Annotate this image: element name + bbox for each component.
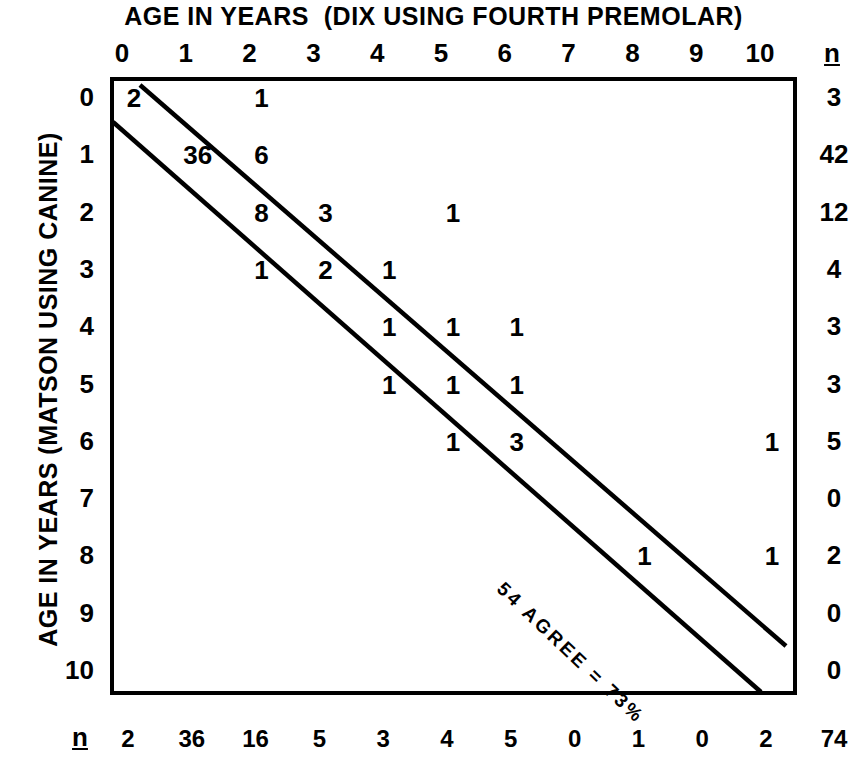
row-total-header: n xyxy=(812,38,852,69)
y-tick-label: 1 xyxy=(30,139,94,170)
column-total: 16 xyxy=(228,725,284,753)
column-total: 5 xyxy=(483,725,539,753)
cell-count: 1 xyxy=(744,427,800,458)
y-tick-label: 4 xyxy=(30,311,94,342)
grand-total: 74 xyxy=(806,725,862,753)
row-total: 5 xyxy=(806,426,862,457)
cell-count: 1 xyxy=(361,255,417,286)
row-total: 12 xyxy=(806,197,862,228)
y-tick-label: 9 xyxy=(30,598,94,629)
column-total-header: n xyxy=(60,722,100,753)
row-total: 0 xyxy=(806,483,862,514)
column-total: 0 xyxy=(547,725,603,753)
column-total: 4 xyxy=(419,725,475,753)
x-tick-label: 9 xyxy=(676,38,716,69)
row-total: 42 xyxy=(806,139,862,170)
row-total: 2 xyxy=(806,540,862,571)
x-tick-label: 7 xyxy=(549,38,589,69)
column-total: 1 xyxy=(610,725,666,753)
cell-count: 36 xyxy=(170,140,226,171)
row-total: 0 xyxy=(806,655,862,686)
column-total: 2 xyxy=(100,725,156,753)
cell-count: 1 xyxy=(489,370,545,401)
cell-count: 1 xyxy=(425,370,481,401)
cell-count: 1 xyxy=(361,370,417,401)
x-tick-label: 0 xyxy=(102,38,142,69)
y-tick-label: 5 xyxy=(30,369,94,400)
cell-count: 6 xyxy=(234,140,290,171)
cell-count: 1 xyxy=(425,198,481,229)
y-tick-label: 8 xyxy=(30,540,94,571)
cell-count: 2 xyxy=(106,83,162,114)
column-total: 36 xyxy=(164,725,220,753)
cell-count: 1 xyxy=(744,541,800,572)
chart-canvas: AGE IN YEARS (DIX USING FOURTH PREMOLAR)… xyxy=(0,0,867,770)
x-tick-label: 8 xyxy=(612,38,652,69)
cell-count: 1 xyxy=(361,312,417,343)
column-total: 2 xyxy=(738,725,794,753)
y-tick-label: 0 xyxy=(30,82,94,113)
cell-count: 1 xyxy=(489,312,545,343)
row-total: 0 xyxy=(806,598,862,629)
y-tick-label: 7 xyxy=(30,483,94,514)
x-tick-label: 6 xyxy=(485,38,525,69)
x-tick-label: 1 xyxy=(166,38,206,69)
x-tick-label: 10 xyxy=(740,38,780,69)
x-tick-label: 3 xyxy=(293,38,333,69)
row-total: 4 xyxy=(806,254,862,285)
y-tick-label: 3 xyxy=(30,254,94,285)
x-axis-title: AGE IN YEARS (DIX USING FOURTH PREMOLAR) xyxy=(0,2,867,31)
cell-count: 8 xyxy=(234,198,290,229)
cell-count: 1 xyxy=(616,541,672,572)
row-total: 3 xyxy=(806,369,862,400)
column-total: 5 xyxy=(291,725,347,753)
y-tick-label: 2 xyxy=(30,197,94,228)
cell-count: 1 xyxy=(234,255,290,286)
row-total: 3 xyxy=(806,82,862,113)
y-tick-label: 6 xyxy=(30,426,94,457)
cell-count: 1 xyxy=(234,83,290,114)
x-tick-label: 2 xyxy=(230,38,270,69)
x-tick-label: 4 xyxy=(357,38,397,69)
column-total: 0 xyxy=(674,725,730,753)
x-tick-label: 5 xyxy=(421,38,461,69)
column-total: 3 xyxy=(355,725,411,753)
cell-count: 3 xyxy=(297,198,353,229)
cell-count: 2 xyxy=(297,255,353,286)
cell-count: 1 xyxy=(425,427,481,458)
cell-count: 1 xyxy=(425,312,481,343)
cell-count: 3 xyxy=(489,427,545,458)
row-total: 3 xyxy=(806,311,862,342)
y-tick-label: 10 xyxy=(30,655,94,686)
